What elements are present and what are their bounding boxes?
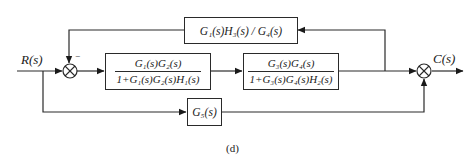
- minus-sign: −: [75, 51, 80, 61]
- figure-caption: (d): [226, 142, 239, 154]
- feedforward-block-g5: G₅(s): [187, 98, 222, 126]
- feedback-block: G₁(s)H₃(s) / G₄(s): [184, 17, 298, 44]
- feedback-block-label: G₁(s)H₃(s) / G₄(s): [200, 25, 282, 37]
- block1-numerator: G₁(s)G₂(s): [135, 57, 182, 70]
- fraction-bar: [248, 71, 334, 72]
- input-label: R(s): [21, 53, 43, 66]
- forward-block-2: G₃(s)G₄(s) 1+G₃(s)G₄(s)H₂(s): [243, 53, 339, 90]
- summing-junction-1: [63, 64, 77, 78]
- block1-denominator: 1+G₁(s)G₂(s)H₁(s): [116, 73, 199, 86]
- g5-block-label: G₅(s): [192, 106, 216, 118]
- block2-denominator: 1+G₃(s)G₄(s)H₂(s): [249, 73, 332, 86]
- output-label: C(s): [433, 52, 455, 65]
- block2-numerator: G₃(s)G₄(s): [268, 57, 315, 70]
- fraction-bar: [115, 71, 201, 72]
- forward-block-1: G₁(s)G₂(s) 1+G₁(s)G₂(s)H₁(s): [105, 53, 211, 90]
- summing-junction-2: [417, 64, 431, 78]
